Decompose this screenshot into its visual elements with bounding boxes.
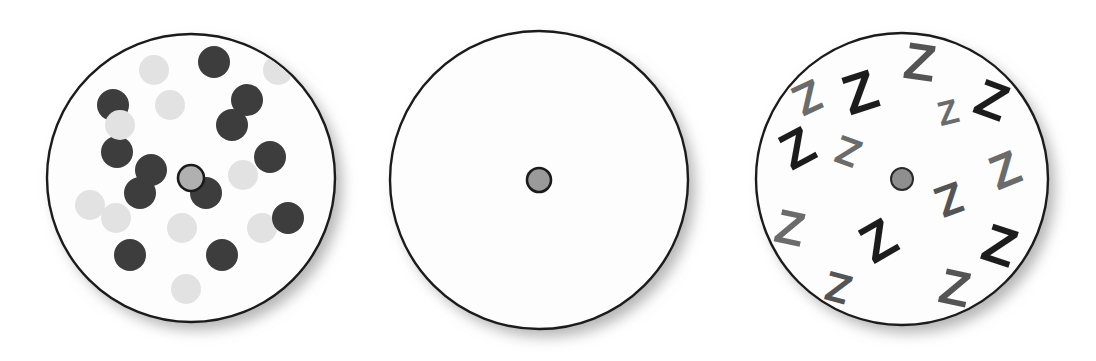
- disc-dot: [206, 239, 238, 271]
- disc-dot: [254, 141, 286, 173]
- disc-dot: [228, 160, 258, 190]
- letter-disc[interactable]: ZZZZZZZZZZZZZZ: [756, 31, 1048, 325]
- disc-dot: [167, 213, 197, 243]
- disc-dot: [272, 202, 304, 234]
- disc-dot: [216, 109, 248, 141]
- disc-dot: [171, 274, 201, 304]
- figure-canvas: ZZZZZZZZZZZZZZ: [0, 0, 1096, 361]
- wedge-disc-hub[interactable]: [527, 168, 551, 192]
- disc-dot: [198, 46, 230, 78]
- dot-disc[interactable]: [47, 34, 335, 322]
- disc-dot: [139, 55, 169, 85]
- dot-disc-hub[interactable]: [178, 165, 204, 191]
- disc-dot: [124, 177, 156, 209]
- disc-dot: [114, 239, 146, 271]
- letter-disc-hub[interactable]: [891, 168, 913, 190]
- disc-dot: [75, 190, 105, 220]
- disc-dot: [101, 203, 131, 233]
- wedge-disc[interactable]: [388, 29, 690, 331]
- disc-dot: [101, 136, 133, 168]
- figure-root: ZZZZZZZZZZZZZZ: [0, 0, 1096, 361]
- disc-dot: [155, 90, 185, 120]
- disc-dot: [105, 110, 135, 140]
